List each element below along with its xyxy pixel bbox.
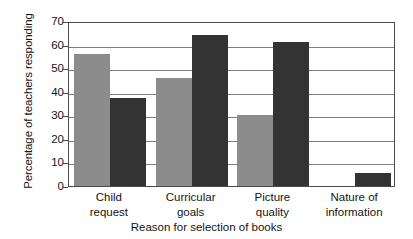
y-axis-tick-labels: 010203040506070: [38, 22, 64, 187]
bar: [192, 35, 228, 186]
bars-layer: [69, 23, 394, 186]
x-axis-category-label-line2: goals: [150, 205, 232, 220]
y-axis-tick-label: 30: [38, 111, 64, 123]
y-axis-title: Percentage of teachers responding: [22, 11, 34, 191]
y-axis-tick-label: 50: [38, 63, 64, 75]
x-axis-category-label-line2: quality: [232, 205, 314, 220]
bar: [237, 115, 273, 186]
x-axis-category-label: Curriculargoals: [150, 190, 232, 220]
x-axis-category-label-line2: information: [313, 205, 395, 220]
y-axis-tick-label: 60: [38, 40, 64, 52]
y-axis-tick-mark: [62, 187, 68, 188]
bar-chart: Percentage of teachers responding 010203…: [0, 0, 413, 239]
bar: [74, 54, 110, 186]
x-axis-category-label: Childrequest: [68, 190, 150, 220]
x-axis-category-label-line1: Nature of: [330, 191, 377, 203]
x-axis-category-label: Picturequality: [232, 190, 314, 220]
x-axis-category-label-line1: Curricular: [166, 191, 216, 203]
bar: [273, 42, 309, 186]
y-axis-tick-label: 0: [38, 181, 64, 193]
x-axis-category-label-line1: Child: [96, 191, 122, 203]
y-axis-tick-label: 70: [38, 16, 64, 28]
x-axis-title: Reason for selection of books: [0, 221, 413, 233]
bar: [110, 98, 146, 186]
x-axis-category-label-line1: Picture: [254, 191, 290, 203]
y-axis-tick-label: 20: [38, 134, 64, 146]
bar: [156, 78, 192, 186]
plot-area: [68, 22, 395, 187]
bar: [355, 173, 391, 186]
x-axis-category-label-line2: request: [68, 205, 150, 220]
y-axis-tick-label: 40: [38, 87, 64, 99]
x-axis-category-label: Nature ofinformation: [313, 190, 395, 220]
y-axis-tick-label: 10: [38, 158, 64, 170]
